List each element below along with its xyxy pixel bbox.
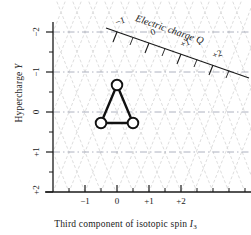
state-node xyxy=(96,118,107,129)
x-tick-label-plus2: +2 xyxy=(169,196,193,206)
y-axis-title-symbol: Y xyxy=(14,63,24,68)
triplet-nodes xyxy=(96,80,139,129)
x-axis-title-subscript: 3 xyxy=(193,223,197,231)
y-tick-label--1: −1 xyxy=(31,62,41,82)
x-axis xyxy=(45,185,251,192)
y-tick-label-0: 0 xyxy=(31,102,41,122)
y-axis-title: Hypercharge Y xyxy=(14,38,24,148)
y-tick-label--2: −2 xyxy=(31,22,41,42)
x-tick-label--1: −1 xyxy=(73,196,97,206)
y-tick-label-plus1: +1 xyxy=(31,142,41,162)
x-axis-title: Third component of isotopic spin I3 xyxy=(0,219,251,231)
x-tick-label-0: 0 xyxy=(105,196,129,206)
y-tick-label-plus2: +2 xyxy=(31,180,41,200)
state-node xyxy=(112,80,123,91)
x-tick-label-plus1: +1 xyxy=(137,196,161,206)
y-axis xyxy=(46,22,53,192)
weight-diagram-figure: −1 0 +1 +2 −2 −1 0 +1 +2 −1 0 +1 +2 Elec… xyxy=(0,0,251,235)
y-axis-title-text: Hypercharge xyxy=(14,69,24,123)
state-node xyxy=(128,118,139,129)
x-axis-title-text: Third component of isotopic spin xyxy=(54,219,190,229)
